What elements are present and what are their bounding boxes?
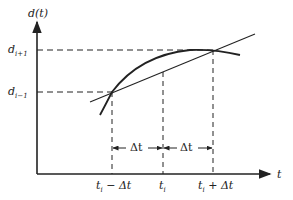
central-difference-diagram: d(t) t di+1 di−1 Δt Δt ti − Δt ti ti + Δ… (0, 0, 293, 200)
t-i-label: ti (159, 180, 166, 194)
delta-t-label-left: Δt (130, 142, 142, 153)
d-i-plus-1-label: di+1 (8, 44, 28, 58)
d-i-minus-1-label: di−1 (8, 86, 28, 100)
function-curve (100, 50, 240, 115)
t-i-minus-delta-label: ti − Δt (96, 180, 131, 194)
y-axis-label: d(t) (28, 8, 48, 19)
delta-t-label-right: Δt (180, 142, 192, 153)
secant-line (90, 34, 255, 102)
x-axis-label: t (277, 169, 281, 180)
diagram-graphics (0, 0, 293, 200)
t-i-plus-delta-label: ti + Δt (198, 180, 233, 194)
